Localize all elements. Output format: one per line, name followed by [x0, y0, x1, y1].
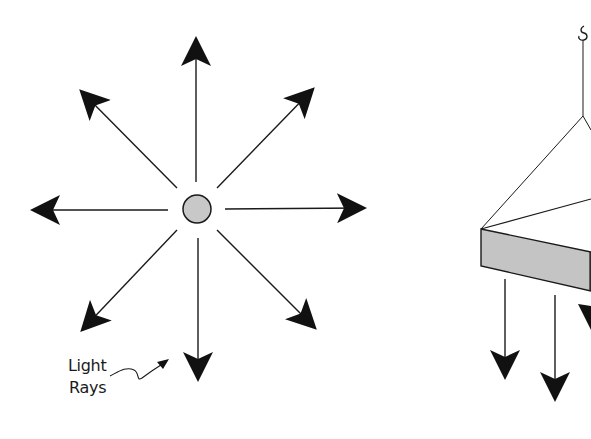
point-light-source: [183, 195, 211, 223]
hook-icon: [579, 26, 587, 40]
ray-right: [225, 208, 363, 209]
ray-down-left: [83, 230, 177, 329]
panel-rays: [505, 279, 555, 398]
light-rays-label-line1: Light: [68, 356, 106, 375]
ray-up-left: [82, 92, 177, 188]
light-panel-front: [481, 229, 591, 291]
light-rays-label-line2: Rays: [69, 378, 106, 397]
panel-ray-3-arrowhead-icon: [578, 304, 591, 330]
suspension-line-right: [583, 116, 591, 130]
suspension-line-left: [481, 116, 583, 229]
panel-source-group: [481, 26, 591, 398]
point-source-group: [34, 40, 363, 379]
ray-up-right: [217, 90, 312, 188]
ray-down-right: [217, 230, 314, 327]
callout-arrowhead-icon: [157, 359, 169, 369]
callout-squiggle: [110, 363, 164, 379]
panel-top-back-edge: [481, 199, 591, 229]
